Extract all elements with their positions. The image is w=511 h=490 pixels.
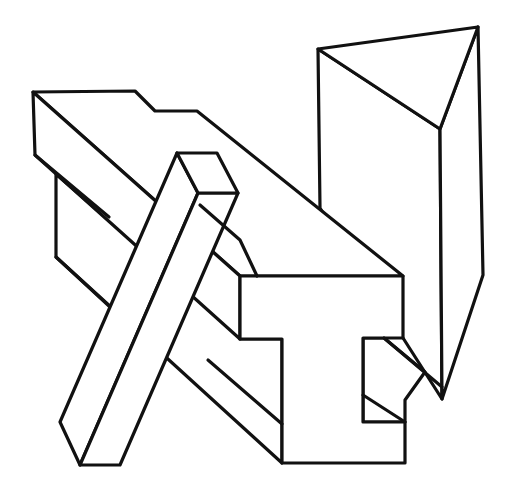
line-drawing — [0, 0, 511, 490]
figure-canvas — [0, 0, 511, 490]
